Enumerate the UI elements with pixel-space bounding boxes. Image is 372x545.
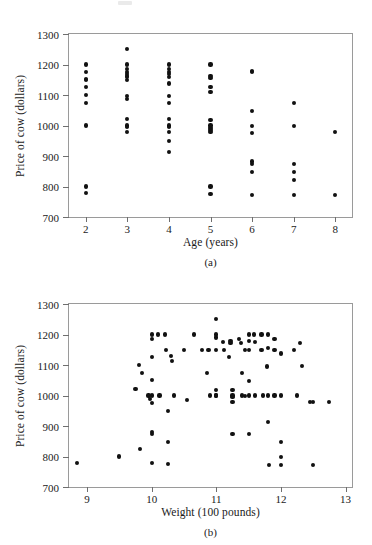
data-point <box>157 393 161 397</box>
data-point <box>167 81 171 85</box>
panel-caption-a: (a) <box>68 256 353 268</box>
data-point <box>125 125 129 129</box>
y-tick-label-a-1100: 1100 <box>37 90 59 101</box>
data-point <box>200 348 204 352</box>
data-point <box>167 75 171 79</box>
data-point <box>266 393 270 397</box>
data-point <box>250 70 254 74</box>
x-tick-label-b-11: 11 <box>211 494 222 505</box>
data-point <box>292 170 296 174</box>
data-point <box>84 101 88 105</box>
x-tick-a-6 <box>252 217 253 222</box>
y-tick-label-a-1000: 1000 <box>37 121 59 132</box>
data-point <box>239 341 243 345</box>
x-axis-label-a: Age (years) <box>68 236 353 248</box>
data-point <box>327 400 331 404</box>
data-point <box>272 393 276 397</box>
data-point <box>221 340 225 344</box>
x-tick-a-5 <box>211 217 212 222</box>
data-point <box>84 191 88 195</box>
data-point <box>253 340 257 344</box>
data-point <box>125 78 129 82</box>
x-tick-label-a-5: 5 <box>208 224 214 235</box>
scan-artifact <box>118 1 132 5</box>
y-tick-a-1000: 1000 <box>63 126 69 127</box>
y-tick-label-b-800: 800 <box>43 452 60 463</box>
data-point <box>292 348 296 352</box>
data-points-a <box>69 34 352 217</box>
data-point <box>250 170 254 174</box>
x-tick-label-a-8: 8 <box>333 224 339 235</box>
panel-a: Price of cow (dollars) 70080090010001100… <box>0 0 372 275</box>
x-tick-a-3 <box>127 217 128 222</box>
x-tick-b-9 <box>87 487 88 492</box>
data-point <box>167 117 171 121</box>
y-tick-b-700: 700 <box>63 487 69 488</box>
x-tick-label-a-3: 3 <box>125 224 131 235</box>
data-point <box>150 401 154 405</box>
data-point <box>206 348 210 352</box>
data-point <box>279 455 283 459</box>
data-point <box>164 348 168 352</box>
x-tick-label-a-6: 6 <box>249 224 255 235</box>
y-axis-label-b: Price of cow (dollars) <box>12 303 28 488</box>
data-point <box>292 101 296 105</box>
data-point <box>333 130 337 134</box>
x-tick-label-a-7: 7 <box>291 224 297 235</box>
data-point <box>228 341 232 345</box>
data-point <box>84 70 88 74</box>
data-point <box>167 101 171 105</box>
data-point <box>272 348 276 352</box>
data-point <box>266 420 270 424</box>
y-tick-label-b-1300: 1300 <box>37 299 59 310</box>
y-tick-label-a-900: 900 <box>43 151 60 162</box>
x-tick-label-b-9: 9 <box>84 494 90 505</box>
data-point <box>214 393 218 397</box>
data-point <box>150 461 154 465</box>
data-point <box>150 337 154 341</box>
data-point <box>266 346 270 350</box>
y-tick-a-800: 800 <box>63 187 69 188</box>
data-point <box>172 393 176 397</box>
data-point <box>247 379 251 383</box>
data-point <box>227 355 231 359</box>
data-point <box>117 454 121 458</box>
data-point <box>192 332 196 336</box>
data-point <box>279 463 283 467</box>
data-point <box>167 125 171 129</box>
data-point <box>84 85 88 89</box>
data-point <box>150 378 154 382</box>
data-point <box>295 393 299 397</box>
y-axis-label-a: Price of cow (dollars) <box>12 33 28 218</box>
data-point <box>247 432 251 436</box>
data-point <box>265 364 269 368</box>
y-tick-b-1000: 1000 <box>63 396 69 397</box>
data-point <box>230 400 234 404</box>
data-point <box>250 131 254 135</box>
x-tick-b-13 <box>346 487 347 492</box>
data-point <box>250 124 254 128</box>
y-tick-b-1300: 1300 <box>63 304 69 305</box>
data-point <box>166 462 170 466</box>
x-tick-label-b-10: 10 <box>146 494 157 505</box>
data-point <box>267 463 271 467</box>
data-point <box>279 393 283 397</box>
x-tick-b-12 <box>281 487 282 492</box>
data-point <box>208 118 212 122</box>
data-point <box>222 348 226 352</box>
data-point <box>214 348 218 352</box>
data-point <box>300 364 304 368</box>
data-point <box>138 447 142 451</box>
data-point <box>84 123 88 127</box>
y-tick-label-b-700: 700 <box>43 482 60 493</box>
y-tick-a-900: 900 <box>63 156 69 157</box>
y-tick-a-1100: 1100 <box>63 95 69 96</box>
data-point <box>125 47 129 51</box>
data-point <box>208 85 212 89</box>
x-tick-label-b-13: 13 <box>340 494 351 505</box>
data-point <box>166 440 170 444</box>
data-point <box>247 393 251 397</box>
plot-area-b: 7008009001000110012001300910111213 <box>68 303 353 488</box>
data-point <box>208 62 212 66</box>
data-point <box>311 463 315 467</box>
